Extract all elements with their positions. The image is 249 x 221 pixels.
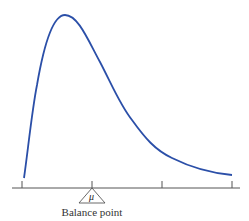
mu-symbol: μ bbox=[88, 191, 94, 202]
density-diagram: μ bbox=[0, 0, 249, 221]
axis-ticks bbox=[22, 181, 232, 188]
balance-point-label: Balance point bbox=[0, 206, 184, 218]
density-curve bbox=[24, 15, 232, 178]
